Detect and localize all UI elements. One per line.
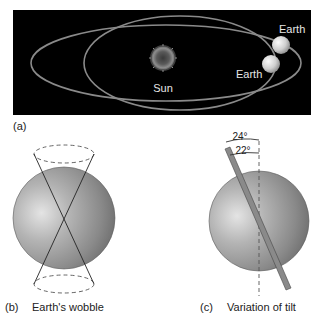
- panel-c-caption: Variation of tilt: [227, 301, 296, 313]
- sun-label: Sun: [153, 82, 173, 94]
- angle-24-label: 24°: [232, 131, 247, 142]
- panel-b-label: (b): [5, 301, 18, 313]
- panel-a-label: (a): [13, 120, 26, 132]
- milankovitch-cycles-figure: Sun Earth Earth (a) (b) Earth's wobble 2…: [0, 0, 323, 317]
- panel-c-label: (c): [200, 301, 213, 313]
- panel-b-caption: Earth's wobble: [32, 301, 104, 313]
- sun-icon: [149, 44, 177, 72]
- earth-label-2: Earth: [236, 68, 262, 80]
- precession-circle-bottom: [34, 275, 94, 293]
- angle-22-label: 22°: [235, 145, 250, 156]
- earth-label-1: Earth: [279, 23, 305, 35]
- earth-icon-aphelion: [272, 36, 290, 54]
- panel-b-wobble: [13, 145, 115, 293]
- panel-c-tilt: 24° 22°: [209, 131, 309, 296]
- earth-icon-inner: [262, 55, 280, 73]
- precession-circle-top: [34, 145, 94, 163]
- panel-a-orbits: Sun Earth Earth: [13, 10, 311, 115]
